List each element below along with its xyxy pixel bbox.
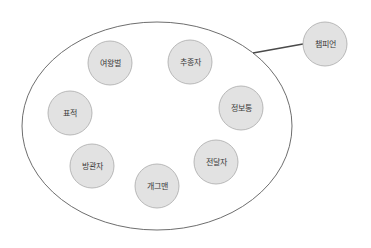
- diagram-canvas: 여왕벌추종자정보통표적방관자개그맨전달자 챔피언: [0, 0, 371, 248]
- node-label: 추종자: [180, 58, 202, 67]
- node-bystander: 방관자: [70, 144, 114, 188]
- node-label: 정보통: [231, 103, 252, 113]
- node-informant: 정보통: [219, 86, 263, 130]
- node-label: 챔피언: [315, 39, 336, 49]
- champion-connector-line: [253, 44, 303, 53]
- node-label: 개그맨: [147, 181, 168, 191]
- node-label: 표적: [63, 108, 77, 118]
- external-node: 챔피언: [303, 22, 347, 66]
- node-messenger: 전달자: [194, 140, 238, 184]
- node-queen-bee: 여왕벌: [88, 41, 132, 85]
- node-comedian: 개그맨: [135, 164, 179, 208]
- node-label: 방관자: [82, 161, 104, 171]
- node-follower: 추종자: [168, 40, 212, 84]
- node-target: 표적: [48, 91, 92, 135]
- node-champion: 챔피언: [303, 22, 347, 66]
- node-label: 전달자: [206, 157, 228, 167]
- node-label: 여왕벌: [100, 58, 121, 68]
